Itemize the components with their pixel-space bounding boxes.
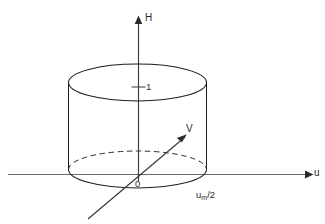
u-max-half-label: um/2 bbox=[196, 190, 215, 201]
v-vector-label: V bbox=[186, 124, 193, 134]
cylinder-diagram-svg bbox=[0, 0, 325, 224]
v-vector-group bbox=[88, 134, 187, 219]
h-axis-arrowhead bbox=[135, 16, 143, 25]
h-axis-tick-label-1: 1 bbox=[146, 82, 151, 92]
u-axis-group bbox=[8, 171, 314, 179]
cylinder-top-ellipse bbox=[69, 64, 207, 101]
v-vector-arrowhead bbox=[177, 134, 187, 142]
u-max-half-suffix: /2 bbox=[207, 189, 215, 200]
origin-label: 0 bbox=[135, 179, 140, 189]
figure-canvas: H u 1 0 V um/2 bbox=[0, 0, 325, 224]
h-axis-label: H bbox=[145, 13, 152, 23]
u-axis-arrowhead bbox=[305, 171, 314, 179]
h-axis-group bbox=[132, 16, 146, 182]
cylinder-bottom-back-arc bbox=[69, 151, 207, 169]
u-axis-label: u bbox=[314, 168, 320, 178]
